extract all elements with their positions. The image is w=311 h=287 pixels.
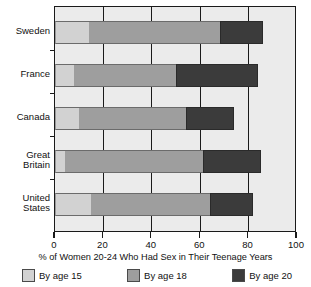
legend-item: By age 20 xyxy=(232,269,292,282)
bar-segment xyxy=(89,21,220,44)
legend-item: By age 18 xyxy=(127,269,187,282)
y-axis-label: Sweden xyxy=(0,26,50,37)
bar-segment xyxy=(79,107,185,130)
bar-segment xyxy=(55,107,79,130)
y-axis-tick xyxy=(50,50,55,51)
x-axis-tick-label: 100 xyxy=(281,239,311,250)
bar-group xyxy=(55,54,295,97)
y-axis-tick xyxy=(50,136,55,137)
bar-segment xyxy=(55,21,89,44)
y-axis-label: United States xyxy=(0,193,50,214)
stacked-bar xyxy=(55,193,253,216)
bar-segment xyxy=(186,107,234,130)
bar-segment xyxy=(210,193,254,216)
legend-label: By age 15 xyxy=(39,270,82,281)
bar-segment xyxy=(220,21,264,44)
x-axis-tick-label: 60 xyxy=(184,239,214,250)
y-axis-label: Canada xyxy=(0,112,50,123)
plot-area xyxy=(54,6,296,232)
legend-swatch xyxy=(127,269,140,282)
x-axis-tick-label: 0 xyxy=(39,239,69,250)
stacked-bar xyxy=(55,107,234,130)
bar-segment xyxy=(55,150,65,173)
x-axis-tick xyxy=(102,232,103,238)
bar-segment xyxy=(74,64,176,87)
legend: By age 15By age 18By age 20 xyxy=(22,266,292,284)
plot-inner xyxy=(55,7,295,231)
y-axis-label: France xyxy=(0,69,50,80)
y-axis-label: Great Britain xyxy=(0,150,50,171)
bar-group xyxy=(55,140,295,183)
y-axis-tick xyxy=(50,179,55,180)
x-axis-tick xyxy=(295,232,296,238)
legend-label: By age 20 xyxy=(249,270,292,281)
x-axis-tick-label: 80 xyxy=(233,239,263,250)
x-axis-tick xyxy=(247,232,248,238)
bar-group xyxy=(55,11,295,54)
legend-label: By age 18 xyxy=(144,270,187,281)
x-axis-tick-label: 20 xyxy=(87,239,117,250)
bar-chart: SwedenFranceCanadaGreat BritainUnited St… xyxy=(0,0,311,287)
legend-swatch xyxy=(232,269,245,282)
bar-group xyxy=(55,183,295,226)
y-axis-tick xyxy=(50,93,55,94)
stacked-bar xyxy=(55,150,261,173)
bar-segment xyxy=(91,193,210,216)
stacked-bar xyxy=(55,64,258,87)
x-axis-title: % of Women 20-24 Who Had Sex in Their Te… xyxy=(0,252,311,263)
x-axis-tick-label: 40 xyxy=(136,239,166,250)
bar-group xyxy=(55,97,295,140)
x-axis-tick xyxy=(150,232,151,238)
stacked-bar xyxy=(55,21,263,44)
x-axis-tick xyxy=(199,232,200,238)
bar-segment xyxy=(203,150,261,173)
bar-segment xyxy=(176,64,258,87)
legend-item: By age 15 xyxy=(22,269,82,282)
legend-swatch xyxy=(22,269,35,282)
bar-segment xyxy=(55,64,74,87)
bar-segment xyxy=(55,193,91,216)
x-axis-tick xyxy=(53,232,54,238)
bar-segment xyxy=(65,150,203,173)
